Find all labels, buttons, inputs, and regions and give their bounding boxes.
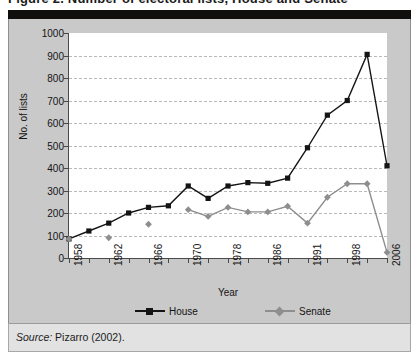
x-tick-mark bbox=[308, 258, 309, 263]
data-point-house bbox=[86, 228, 91, 233]
legend-label-senate: Senate bbox=[299, 306, 331, 317]
data-point-senate bbox=[145, 221, 152, 228]
plot-area: 01002003004005006007008009001000 1958196… bbox=[69, 33, 387, 258]
y-tick-label: 400 bbox=[47, 163, 64, 174]
source-note: Source: Pizarro (2002). bbox=[16, 331, 125, 343]
house-legend-swatch bbox=[135, 305, 165, 317]
data-point-house bbox=[305, 145, 310, 150]
data-point-house bbox=[325, 113, 330, 118]
x-tick-mark bbox=[367, 258, 368, 263]
y-tick-label: 100 bbox=[47, 230, 64, 241]
x-tick-mark bbox=[347, 258, 348, 263]
source-citation: Pizarro (2002). bbox=[52, 331, 124, 343]
y-tick-label: 1000 bbox=[42, 28, 64, 39]
data-point-house bbox=[384, 163, 389, 168]
x-tick-mark bbox=[268, 258, 269, 263]
data-point-house bbox=[166, 203, 171, 208]
x-tick-mark bbox=[89, 258, 90, 263]
y-tick-label: 700 bbox=[47, 95, 64, 106]
series-line-house bbox=[69, 54, 387, 239]
data-point-house bbox=[365, 52, 370, 57]
legend-item-senate: Senate bbox=[265, 305, 331, 317]
data-point-house bbox=[265, 181, 270, 186]
data-point-house bbox=[186, 183, 191, 188]
y-tick-label: 600 bbox=[47, 118, 64, 129]
source-prefix: Source: bbox=[16, 331, 52, 343]
figure-panel: No. of lists Year 0100200300400500600700… bbox=[8, 19, 411, 323]
y-tick-label: 800 bbox=[47, 73, 64, 84]
y-axis-title: No. of lists bbox=[18, 57, 29, 177]
figure-caption-text: Figure 2. Number of electoral lists, Hou… bbox=[8, 0, 348, 6]
data-point-house bbox=[146, 205, 151, 210]
data-point-senate bbox=[264, 208, 271, 215]
figure-source-footer: Source: Pizarro (2002). bbox=[8, 323, 411, 352]
data-point-house bbox=[225, 183, 230, 188]
legend-item-house: House bbox=[135, 305, 198, 317]
chart-container: No. of lists Year 0100200300400500600700… bbox=[9, 19, 412, 323]
series-line-senate bbox=[188, 184, 387, 253]
data-point-house bbox=[106, 221, 111, 226]
x-axis-title: Year bbox=[69, 287, 387, 298]
data-point-house bbox=[285, 176, 290, 181]
series-layer bbox=[69, 33, 387, 258]
x-tick-mark bbox=[69, 258, 70, 263]
figure-top-rule bbox=[8, 10, 411, 19]
chart-legend: House Senate bbox=[69, 305, 387, 319]
x-tick-mark bbox=[248, 258, 249, 263]
x-tick-mark bbox=[129, 258, 130, 263]
y-tick-label: 200 bbox=[47, 208, 64, 219]
senate-legend-swatch bbox=[265, 305, 295, 317]
x-tick-mark bbox=[188, 258, 189, 263]
data-point-senate bbox=[364, 180, 371, 187]
y-tick-label: 300 bbox=[47, 185, 64, 196]
data-point-senate bbox=[105, 234, 112, 241]
data-point-senate bbox=[384, 249, 391, 256]
x-tick-mark bbox=[327, 258, 328, 263]
data-point-house bbox=[206, 196, 211, 201]
legend-label-house: House bbox=[169, 306, 198, 317]
data-point-senate bbox=[244, 208, 251, 215]
data-point-house bbox=[245, 180, 250, 185]
data-point-senate bbox=[185, 206, 192, 213]
x-tick-mark bbox=[208, 258, 209, 263]
data-point-house bbox=[126, 210, 131, 215]
x-tick-mark bbox=[288, 258, 289, 263]
figure-caption-strip: Figure 2. Number of electoral lists, Hou… bbox=[0, 0, 419, 10]
y-tick-label: 900 bbox=[47, 50, 64, 61]
x-tick-mark bbox=[228, 258, 229, 263]
y-tick-label: 500 bbox=[47, 140, 64, 151]
x-tick-label: 2006 bbox=[391, 244, 402, 266]
data-point-senate bbox=[205, 213, 212, 220]
x-tick-mark bbox=[149, 258, 150, 263]
data-point-house bbox=[345, 98, 350, 103]
data-point-senate bbox=[225, 204, 232, 211]
figure-root: Figure 2. Number of electoral lists, Hou… bbox=[0, 0, 419, 361]
x-tick-mark bbox=[387, 258, 388, 263]
x-tick-mark bbox=[168, 258, 169, 263]
x-tick-mark bbox=[109, 258, 110, 263]
